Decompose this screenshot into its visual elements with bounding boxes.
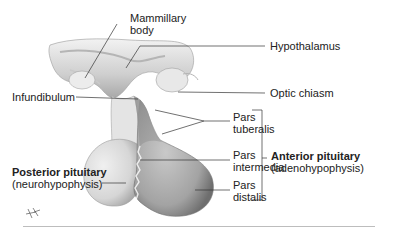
label-line: tuberalis: [233, 123, 275, 135]
label-pars-tuberalis: Pars tuberalis: [233, 111, 275, 135]
label-infundibulum: Infundibulum: [12, 91, 75, 103]
label-anterior-pituitary: Anterior pituitary (adenohypophysis): [271, 150, 364, 174]
label-posterior-pituitary: Posterior pituitary (neurohypophysis): [12, 166, 107, 190]
label-name: Anterior pituitary: [271, 150, 364, 162]
optic-chiasm-shape: [156, 68, 198, 92]
label-line: distalis: [233, 191, 267, 203]
label-alt: (neurohypophysis): [12, 178, 107, 190]
label-line: Pars: [233, 111, 275, 123]
label-optic-chiasm: Optic chiasm: [270, 87, 334, 99]
pituitary-illustration: [0, 0, 396, 236]
label-line: body: [130, 24, 186, 36]
mammillary-body-shape: [69, 71, 95, 89]
label-name: Posterior pituitary: [12, 166, 107, 178]
label-mammillary-body: Mammillary body: [130, 12, 186, 36]
artist-signature-icon: [26, 208, 40, 218]
label-hypothalamus: Hypothalamus: [270, 40, 340, 52]
label-pars-distalis: Pars distalis: [233, 179, 267, 203]
bottom-divider: [23, 226, 375, 227]
label-alt: (adenohypophysis): [271, 162, 364, 174]
label-line: Pars: [233, 179, 267, 191]
label-line: Mammillary: [130, 12, 186, 24]
